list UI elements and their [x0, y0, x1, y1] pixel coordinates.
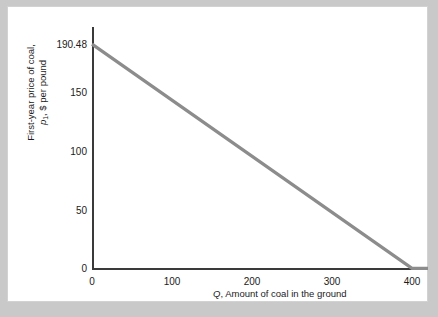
demand-curve-svg — [92, 27, 428, 270]
figure-panel: First-year price of coal, p1, $ per poun… — [7, 6, 428, 302]
y-axis-title-line1: First-year price of coal, — [25, 44, 36, 141]
y-tick-label: 0 — [81, 263, 87, 274]
x-axis-title-text: , Amount of coal in the ground — [220, 288, 346, 299]
y-tick-label: 100 — [70, 145, 87, 156]
y-axis-title-line2: p1, $ per pound — [37, 0, 52, 193]
y-tick-label: 50 — [76, 204, 87, 215]
x-tick-label: 300 — [324, 276, 341, 287]
y-axis-title-symbol: p — [37, 120, 48, 125]
x-tick-label: 400 — [404, 276, 421, 287]
y-tick-label: 190.48 — [56, 39, 87, 50]
x-tick-label: 100 — [164, 276, 181, 287]
y-axis-title-subscript: 1 — [42, 116, 49, 120]
y-tick-label: 150 — [70, 86, 87, 97]
plot-area: 050100150190.48 0100200300400 — [92, 27, 428, 270]
x-tick-label: 200 — [244, 276, 261, 287]
demand-curve-line — [92, 44, 428, 268]
x-tick-label: 0 — [89, 276, 95, 287]
y-axis-title-units: , $ per pound — [37, 60, 48, 116]
y-axis-title: First-year price of coal, p1, $ per poun… — [25, 0, 52, 193]
x-axis-title: Q, Amount of coal in the ground — [213, 288, 347, 299]
